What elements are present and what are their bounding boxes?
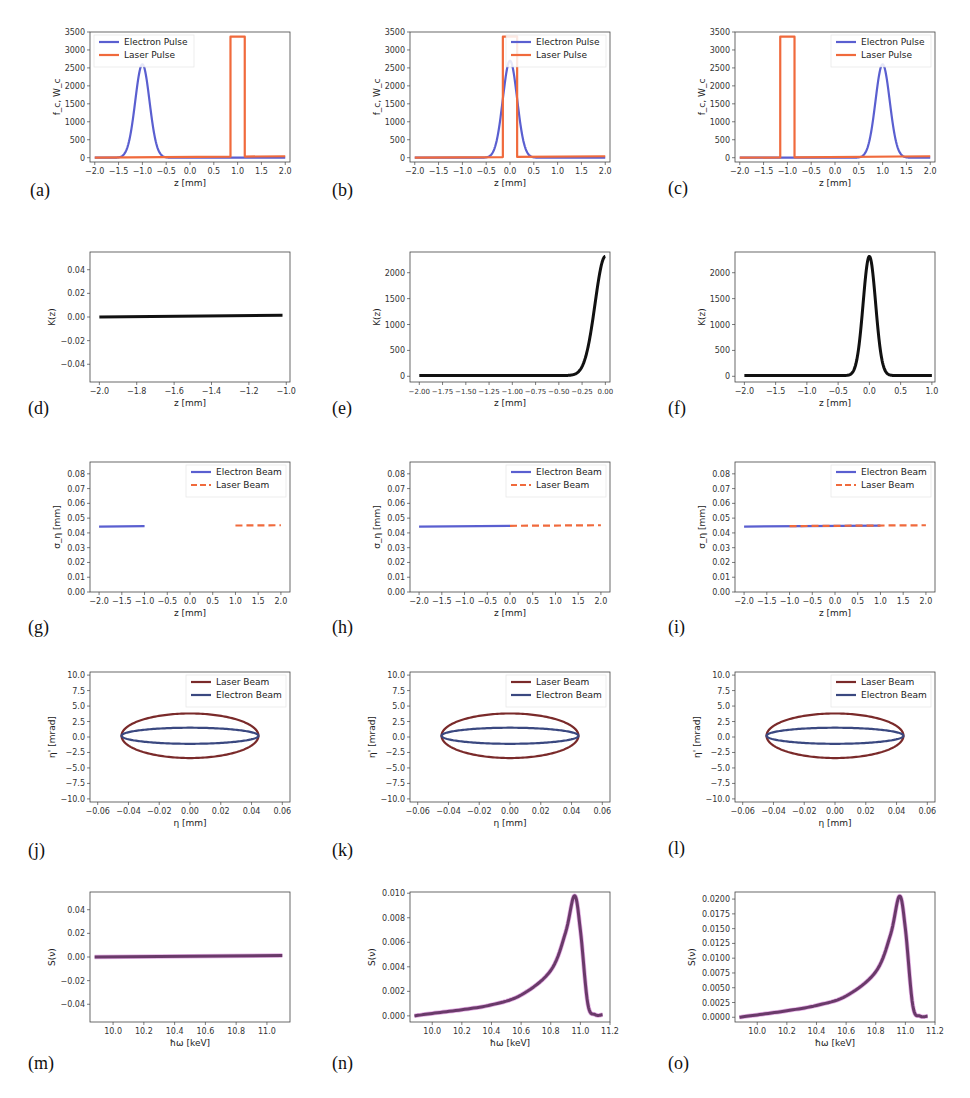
chart-svg-b: −2.0−1.5−1.0−0.50.00.51.01.52.0050010001…: [350, 0, 640, 200]
svg-text:3000: 3000: [385, 46, 405, 55]
svg-text:1.0: 1.0: [231, 167, 244, 176]
svg-text:3500: 3500: [65, 28, 85, 37]
svg-text:0.02: 0.02: [67, 558, 85, 567]
x-axis-label: z [mm]: [819, 178, 851, 188]
svg-text:2000: 2000: [385, 82, 405, 91]
svg-text:−1.5: −1.5: [754, 167, 773, 176]
svg-text:−1.0: −1.0: [455, 597, 474, 606]
svg-text:5.0: 5.0: [72, 702, 85, 711]
svg-text:7.5: 7.5: [392, 687, 405, 696]
chart-panel-i: −2.0−1.5−1.0−0.50.00.51.01.52.00.000.010…: [675, 430, 965, 630]
x-axis-ticks: −2.0−1.5−1.0−0.50.00.51.01.52.0: [85, 162, 292, 176]
svg-text:2.0: 2.0: [275, 597, 288, 606]
chart-svg-m: 10.010.210.410.610.811.0−0.04−0.020.000.…: [30, 860, 320, 1060]
chart-panel-c: −2.0−1.5−1.0−0.50.00.51.01.52.0050010001…: [675, 0, 965, 200]
svg-text:0.5: 0.5: [526, 597, 539, 606]
chart-svg-k: −0.06−0.04−0.020.000.020.040.06−10.0−7.5…: [350, 640, 640, 840]
legend-entry: Electron Beam: [536, 467, 602, 477]
svg-text:−0.02: −0.02: [467, 807, 492, 816]
svg-text:−1.5: −1.5: [112, 597, 131, 606]
y-axis-label: f_c, W_c: [697, 79, 707, 116]
svg-text:0.02: 0.02: [712, 558, 730, 567]
svg-text:−0.06: −0.06: [85, 807, 110, 816]
svg-text:2000: 2000: [710, 269, 730, 278]
svg-text:10.6: 10.6: [512, 1027, 530, 1036]
legend-entry: Laser Pulse: [861, 50, 912, 60]
chart-panel-o: 10.010.210.410.610.811.011.20.00000.0025…: [675, 860, 965, 1060]
svg-text:0.00: 0.00: [67, 313, 85, 322]
svg-text:−2.0: −2.0: [735, 387, 754, 396]
svg-text:1000: 1000: [710, 321, 730, 330]
svg-text:−0.04: −0.04: [761, 807, 786, 816]
subfigure-caption-e: (e): [332, 398, 352, 419]
svg-text:0.008: 0.008: [382, 914, 405, 923]
x-axis-label: η [mm]: [818, 818, 851, 828]
svg-text:10.0: 10.0: [712, 671, 730, 680]
chart-panel-n: 10.010.210.410.610.811.011.20.0000.0020.…: [350, 860, 640, 1060]
svg-text:2.5: 2.5: [717, 718, 730, 727]
svg-text:−0.5: −0.5: [803, 597, 822, 606]
svg-text:0: 0: [80, 154, 85, 163]
svg-text:500: 500: [715, 346, 730, 355]
svg-text:−1.5: −1.5: [109, 167, 128, 176]
legend-entry: Electron Beam: [861, 467, 927, 477]
svg-text:500: 500: [390, 136, 405, 145]
plot-area: [410, 252, 610, 382]
svg-text:−1.5: −1.5: [766, 387, 785, 396]
svg-text:−2.5: −2.5: [66, 748, 85, 757]
svg-text:0.03: 0.03: [387, 544, 405, 553]
svg-text:0.0: 0.0: [184, 167, 197, 176]
y-axis-label: S(ν): [687, 948, 697, 966]
y-axis-label: K(z): [372, 308, 382, 326]
subfigure-caption-o: (o): [668, 1053, 689, 1074]
svg-text:−0.5: −0.5: [801, 167, 820, 176]
subfigure-caption-j: (j): [28, 840, 45, 861]
svg-text:0.04: 0.04: [243, 807, 261, 816]
legend-entry: Electron Beam: [216, 467, 282, 477]
svg-text:11.2: 11.2: [601, 1027, 619, 1036]
svg-text:2.0: 2.0: [599, 167, 612, 176]
subfigure-caption-g: (g): [28, 617, 49, 638]
svg-text:10.4: 10.4: [483, 1027, 501, 1036]
svg-text:−0.02: −0.02: [60, 337, 85, 346]
y-axis-label: η' [mrad]: [367, 716, 377, 758]
svg-text:−1.5: −1.5: [432, 597, 451, 606]
legend: Electron PulseLaser Pulse: [506, 35, 606, 67]
svg-text:0.06: 0.06: [593, 807, 611, 816]
svg-text:3500: 3500: [710, 28, 730, 37]
y-axis-label: σ_η [mm]: [372, 505, 382, 548]
svg-text:2500: 2500: [65, 64, 85, 73]
svg-text:0.0: 0.0: [829, 597, 842, 606]
svg-text:−0.50: −0.50: [548, 388, 569, 396]
chart-panel-a: −2.0−1.5−1.0−0.50.00.51.01.52.0050010001…: [30, 0, 320, 200]
svg-text:0.04: 0.04: [387, 529, 405, 538]
svg-text:−1.0: −1.0: [133, 167, 152, 176]
chart-svg-i: −2.0−1.5−1.0−0.50.00.51.01.52.00.000.010…: [675, 430, 965, 630]
svg-text:0.01: 0.01: [712, 573, 730, 582]
svg-text:−1.0: −1.0: [277, 387, 296, 396]
y-axis-label: K(z): [697, 308, 707, 326]
y-axis-label: f_c, W_c: [52, 79, 62, 116]
svg-text:10.0: 10.0: [67, 671, 85, 680]
svg-text:1500: 1500: [385, 295, 405, 304]
svg-text:−1.25: −1.25: [478, 388, 499, 396]
svg-text:1500: 1500: [385, 100, 405, 109]
y-axis-label: S(ν): [367, 948, 377, 966]
svg-text:−1.0: −1.0: [453, 167, 472, 176]
svg-text:0.06: 0.06: [273, 807, 291, 816]
subfigure-caption-d: (d): [28, 398, 49, 419]
x-axis-label: z [mm]: [494, 608, 526, 618]
chart-svg-n: 10.010.210.410.610.811.011.20.0000.0020.…: [350, 860, 640, 1060]
svg-text:1.0: 1.0: [926, 387, 939, 396]
x-axis-label: η [mm]: [173, 818, 206, 828]
svg-text:−5.0: −5.0: [66, 764, 85, 773]
svg-text:7.5: 7.5: [717, 687, 730, 696]
legend: Laser BeamElectron Beam: [186, 675, 286, 707]
legend-entry: Laser Pulse: [124, 50, 175, 60]
svg-text:10.2: 10.2: [778, 1027, 796, 1036]
x-axis-ticks: −2.0−1.5−1.0−0.50.00.51.01.52.0: [409, 592, 607, 606]
svg-text:−1.0: −1.0: [778, 167, 797, 176]
svg-text:−1.5: −1.5: [757, 597, 776, 606]
svg-text:1.0: 1.0: [874, 597, 887, 606]
svg-text:2000: 2000: [710, 82, 730, 91]
